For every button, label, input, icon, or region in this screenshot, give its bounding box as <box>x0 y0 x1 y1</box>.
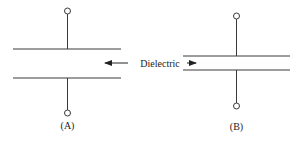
label-b: (B) <box>230 121 243 133</box>
dielectric-callout: Dielectric <box>105 58 196 69</box>
terminal-bottom-a <box>65 110 71 116</box>
terminal-bottom-b <box>234 103 240 109</box>
capacitor-b: (B) <box>183 13 290 133</box>
capacitor-a: (A) <box>13 8 121 132</box>
terminal-top-a <box>65 8 71 14</box>
label-a: (A) <box>61 120 75 132</box>
terminal-top-b <box>234 13 240 19</box>
capacitor-diagram: (A) (B) Dielectric <box>0 0 304 141</box>
dielectric-label: Dielectric <box>140 58 180 69</box>
